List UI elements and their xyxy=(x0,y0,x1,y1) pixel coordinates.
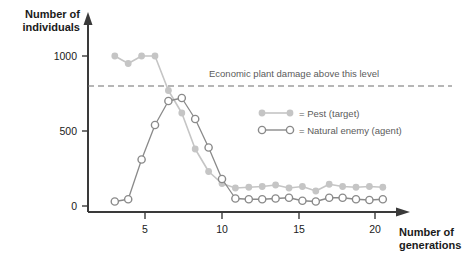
data-point xyxy=(111,198,118,205)
data-point xyxy=(326,181,333,188)
data-point xyxy=(151,121,158,128)
legend-dot-pest-right xyxy=(287,110,294,117)
data-point xyxy=(205,144,212,151)
data-point xyxy=(218,175,225,182)
legend-dot-pest-left xyxy=(259,110,266,117)
data-point xyxy=(299,183,306,190)
data-point xyxy=(379,196,386,203)
legend-marker-natural-enemy xyxy=(258,126,293,133)
data-point xyxy=(299,197,306,204)
data-point xyxy=(152,53,159,60)
data-point xyxy=(111,53,118,60)
data-point xyxy=(366,183,373,190)
data-point xyxy=(286,185,293,192)
data-point xyxy=(272,195,279,202)
x-tick-label-15: 15 xyxy=(293,223,305,235)
data-point xyxy=(326,194,333,201)
data-point xyxy=(245,184,252,191)
data-point xyxy=(205,168,212,175)
chart-legend: = Pest (target) = Natural enemy (agent) xyxy=(258,108,401,136)
legend-marker-pest xyxy=(259,110,294,117)
economic-threshold-label: Economic plant damage above this level xyxy=(209,68,379,79)
data-point xyxy=(339,194,346,201)
data-point xyxy=(192,146,199,153)
data-point xyxy=(192,115,199,122)
data-point xyxy=(245,196,252,203)
x-axis-arrowhead xyxy=(396,208,410,217)
data-point xyxy=(232,195,239,202)
data-point xyxy=(178,110,185,117)
chart-container: Number of individuals 0 500 1000 5 xyxy=(0,0,475,258)
y-tick-label-500: 500 xyxy=(59,125,77,137)
y-axis-arrowhead xyxy=(84,12,93,25)
population-dynamics-chart: Number of individuals 0 500 1000 5 xyxy=(0,0,475,258)
data-point xyxy=(232,185,239,192)
x-axis-title-line1: Number of xyxy=(399,226,454,238)
data-point xyxy=(366,196,373,203)
legend-label-natural-enemy: = Natural enemy (agent) xyxy=(299,125,402,136)
legend-dot-natural-enemy-right xyxy=(286,126,293,133)
data-point xyxy=(259,196,266,203)
data-point xyxy=(259,183,266,190)
data-point xyxy=(312,188,319,195)
y-tick-label-0: 0 xyxy=(71,200,77,212)
legend-label-pest: = Pest (target) xyxy=(299,108,359,119)
data-point xyxy=(138,156,145,163)
economic-threshold-annotation: Economic plant damage above this level xyxy=(88,68,452,86)
data-point xyxy=(339,183,346,190)
data-point xyxy=(312,198,319,205)
y-axis-title-line2: individuals xyxy=(23,21,80,33)
data-point xyxy=(165,87,172,94)
data-point xyxy=(379,184,386,191)
y-tick-label-1000: 1000 xyxy=(54,50,78,62)
x-axis-title-line2: generations xyxy=(399,239,461,251)
y-axis-ticks: 0 500 1000 xyxy=(54,50,88,212)
data-point xyxy=(138,53,145,60)
data-point xyxy=(272,182,279,189)
x-tick-label-10: 10 xyxy=(216,223,228,235)
data-point xyxy=(165,97,172,104)
data-point xyxy=(178,94,185,101)
data-point xyxy=(125,60,132,67)
x-axis-ticks: 5 10 15 20 xyxy=(142,212,381,235)
y-axis-title-line1: Number of xyxy=(25,8,80,20)
data-point xyxy=(125,196,132,203)
data-point xyxy=(353,184,360,191)
legend-dot-natural-enemy-left xyxy=(258,126,265,133)
x-tick-label-20: 20 xyxy=(369,223,381,235)
data-point xyxy=(285,194,292,201)
x-tick-label-5: 5 xyxy=(142,223,148,235)
data-point xyxy=(352,196,359,203)
